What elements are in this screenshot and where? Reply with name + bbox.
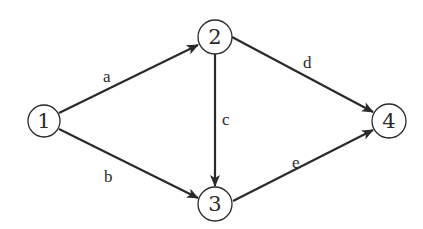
- edge-e: [233, 130, 373, 201]
- edge-d: [232, 37, 373, 112]
- node-label-2: 2: [208, 25, 221, 49]
- edge-label-c: c: [222, 110, 230, 129]
- node-label-3: 3: [208, 192, 221, 216]
- node-4: 4: [372, 104, 406, 138]
- node-2: 2: [198, 20, 232, 54]
- edge-a: [59, 45, 198, 113]
- edge-label-a: a: [103, 67, 111, 86]
- node-label-1: 1: [37, 109, 50, 133]
- network-diagram: a b c d e 1 2 3 4: [0, 0, 423, 229]
- edge-label-b: b: [104, 167, 113, 186]
- node-1: 1: [28, 105, 60, 137]
- edge-b: [59, 129, 198, 198]
- edge-label-e: e: [292, 153, 300, 172]
- node-label-4: 4: [382, 109, 395, 133]
- node-3: 3: [198, 187, 232, 221]
- edge-label-d: d: [303, 53, 312, 72]
